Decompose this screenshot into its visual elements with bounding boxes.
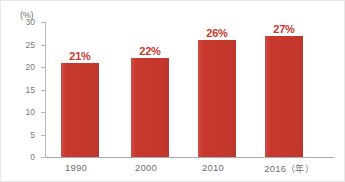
y-tick-label-25: 25	[9, 41, 35, 50]
x-tick-label-1990: 1990	[41, 162, 111, 173]
bar-1990	[61, 63, 99, 158]
y-tick-label-5: 5	[9, 131, 35, 140]
y-tick-label-0: 0	[9, 153, 35, 162]
plot-area: 21% 22% 26% 27%	[45, 22, 334, 157]
y-tick-label-20: 20	[9, 63, 35, 72]
y-tick-label-10: 10	[9, 108, 35, 117]
bar-value-label-2016: 27%	[265, 23, 303, 35]
x-tick-label-2016: 2016（年）	[239, 162, 339, 175]
bar-value-label-1990: 21%	[61, 50, 99, 62]
bar-2010	[198, 40, 236, 157]
x-tick-label-2016-year: 2016	[264, 163, 286, 174]
bar-chart: (%) 30 25 20 15 10 5 0 21% 22% 26% 27% 1…	[0, 0, 345, 182]
x-axis-unit-suffix: （年）	[286, 164, 314, 174]
bar-value-label-2010: 26%	[198, 27, 236, 39]
y-tick-mark-0	[41, 157, 46, 158]
y-tick-label-30: 30	[9, 18, 35, 27]
y-tick-label-15: 15	[9, 86, 35, 95]
x-tick-label-2010: 2010	[178, 162, 248, 173]
bar-2016	[265, 36, 303, 158]
x-tick-label-2000: 2000	[111, 162, 181, 173]
bar-2000	[131, 58, 169, 157]
bar-value-label-2000: 22%	[131, 45, 169, 57]
x-axis-line	[45, 157, 334, 158]
